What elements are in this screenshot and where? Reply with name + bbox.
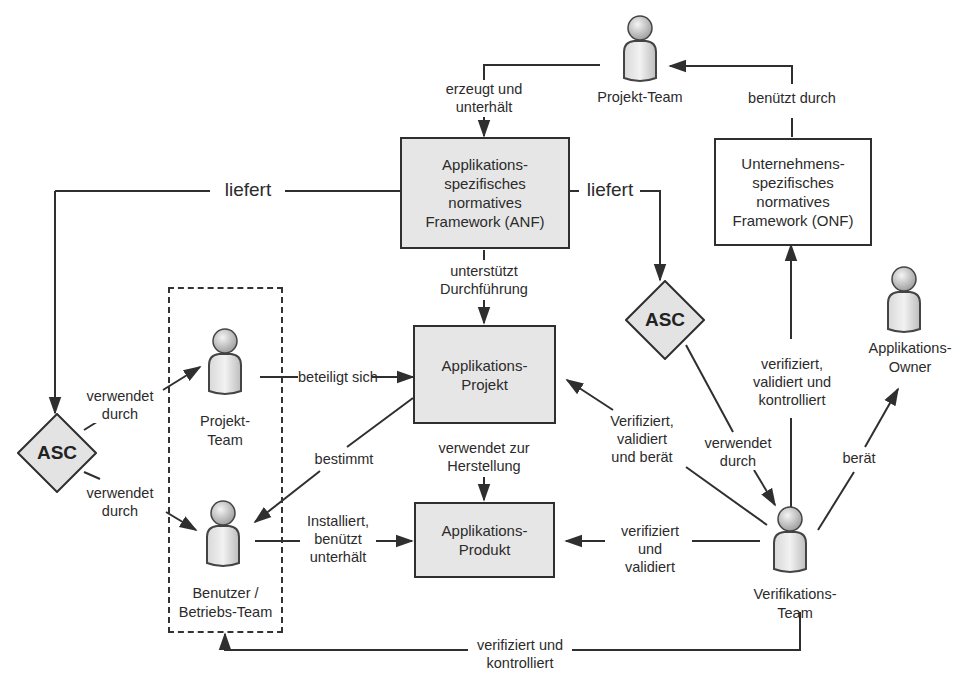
onf-box[interactable]: Unternehmens- spezifisches normatives Fr… — [714, 138, 872, 246]
edge-label-verwendet-zur: verwendet zur Herstellung — [430, 439, 538, 475]
projekt-label: Applikations- Projekt — [442, 356, 528, 394]
edge-label-liefert-right: liefert — [580, 179, 640, 201]
asc-right-label: ASC — [625, 280, 705, 360]
edge-label-beteiligt: beteiligt sich — [298, 368, 372, 386]
person-icon — [880, 263, 928, 335]
benutzer-label: Benutzer / Betriebs-Team — [168, 584, 283, 622]
edge-label-verwendet-durch-1: verwendet durch — [80, 387, 160, 423]
asc-right-diamond[interactable]: ASC — [625, 280, 705, 360]
produkt-label: Applikations- Produkt — [442, 521, 528, 559]
edge-label-verifiziert-kontrolliert-onf: verifiziert, validiert und kontrolliert — [746, 355, 838, 409]
edge-label-beraet: berät — [838, 449, 880, 467]
edge-label-installiert: Installiert, benützt unterhält — [300, 512, 376, 566]
verifikations-team-label: Verifikations- Team — [735, 585, 855, 623]
asc-left-label: ASC — [17, 413, 97, 493]
asc-left-diamond[interactable]: ASC — [17, 413, 97, 493]
projekt-team-top-label: Projekt-Team — [590, 88, 690, 107]
edge-label-bestimmt: bestimmt — [310, 450, 378, 468]
applikations-produkt-box[interactable]: Applikations- Produkt — [414, 502, 555, 578]
edge-label-verifiziert-beraet: Verifiziert, validiert und berät — [600, 412, 684, 466]
edge-label-verwendet-durch-2: verwendet durch — [80, 484, 160, 520]
projekt-team-group-label: Projekt- Team — [175, 412, 275, 450]
edge-label-benuetzt-durch: benützt durch — [740, 89, 844, 107]
anf-box[interactable]: Applikations- spezifisches normatives Fr… — [400, 137, 570, 249]
edge-label-erzeugt: erzeugt und unterhält — [430, 80, 538, 116]
onf-label: Unternehmens- spezifisches normatives Fr… — [733, 154, 854, 230]
edge-erzeugt — [484, 65, 600, 80]
person-icon — [766, 503, 814, 575]
anf-label: Applikations- spezifisches normatives Fr… — [425, 155, 544, 231]
person-icon — [199, 497, 247, 569]
person-icon — [201, 325, 249, 397]
app-owner-label: Applikations- Owner — [855, 339, 965, 377]
person-icon — [616, 12, 664, 84]
edge-label-unterstuetzt: unterstützt Durchführung — [430, 262, 538, 298]
edge-label-verifiziert-kontrolliert-bottom: verifiziert und kontrolliert — [468, 636, 572, 672]
applikations-projekt-box[interactable]: Applikations- Projekt — [413, 325, 556, 424]
edge-label-liefert-left: liefert — [212, 179, 284, 201]
edge-label-verifiziert-validiert: verifiziert und validiert — [608, 522, 692, 576]
edge-label-verwendet-durch-3: verwendet durch — [699, 434, 777, 470]
